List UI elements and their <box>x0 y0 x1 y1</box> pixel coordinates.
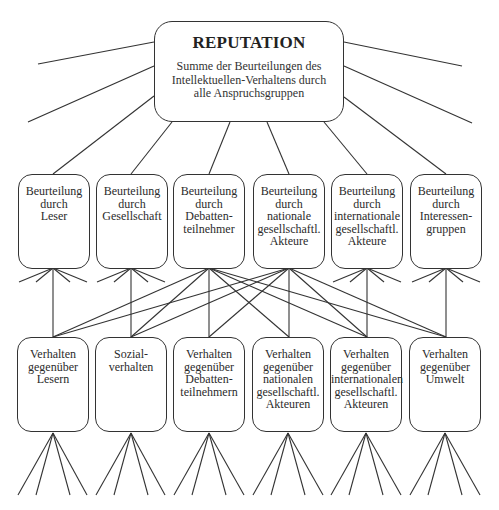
behavior-box-social: Sozial- verhalten <box>95 337 167 432</box>
box-text: Umwelt <box>410 373 480 386</box>
box-text: verhalten <box>96 361 166 374</box>
box-text: internationale <box>332 210 402 223</box>
box-text: Debatten- <box>174 373 244 386</box>
assessment-box-society: Beurteilung durch Gesellschaft <box>96 174 168 269</box>
behavior-box-debaters: Verhalten gegenüber Debatten- teilnehmer… <box>173 337 245 432</box>
box-text: Beurteilung <box>174 185 244 198</box>
box-text: Debatten- <box>174 210 244 223</box>
behavior-box-readers: Verhalten gegenüber Lesern <box>17 337 89 432</box>
reputation-title: REPUTATION <box>155 33 343 53</box>
subtitle-line: alle Anspruchsgruppen <box>159 87 339 101</box>
box-text: Sozial- <box>96 348 166 361</box>
box-text: internationalen <box>331 373 401 386</box>
box-text: gruppen <box>411 223 481 236</box>
assessment-box-national-actors: Beurteilung durch nationale gesellschaft… <box>253 174 325 269</box>
assessment-box-debaters: Beurteilung durch Debatten- teilnehmer <box>173 174 245 269</box>
assessment-box-readers: Beurteilung durch Leser <box>18 174 90 269</box>
box-text: Beurteilung <box>411 185 481 198</box>
behavior-box-international-actors: Verhalten gegenüber internationalen gese… <box>330 337 402 432</box>
subtitle-line: Summe der Beurteilungen des <box>159 60 339 74</box>
box-text: Verhalten <box>18 348 88 361</box>
behavior-box-national-actors: Verhalten gegenüber nationalen gesellsch… <box>252 337 324 432</box>
box-text: Lesern <box>18 373 88 386</box>
box-text: Gesellschaft <box>97 210 167 223</box>
box-text: Leser <box>19 210 89 223</box>
box-text: Beurteilung <box>97 185 167 198</box>
assessment-box-international-actors: Beurteilung durch internationale gesells… <box>331 174 403 269</box>
box-text: Verhalten <box>253 348 323 361</box>
box-text: Akteure <box>332 235 402 248</box>
box-text: Akteuren <box>331 398 401 411</box>
box-text: Beurteilung <box>254 185 324 198</box>
subtitle-line: Intellektuellen-Verhaltens durch <box>159 74 339 88</box>
reputation-subtitle: Summe der Beurteilungen des Intellektuel… <box>155 60 343 101</box>
behavior-box-environment: Verhalten gegenüber Umwelt <box>409 337 481 432</box>
assessment-box-interest-groups: Beurteilung durch Interessen- gruppen <box>410 174 482 269</box>
box-text: Beurteilung <box>332 185 402 198</box>
box-text: Beurteilung <box>19 185 89 198</box>
reputation-box: REPUTATION Summe der Beurteilungen des I… <box>154 21 344 122</box>
box-text: Akteuren <box>253 398 323 411</box>
box-text: Verhalten <box>410 348 480 361</box>
box-text: teilnehmer <box>174 223 244 236</box>
box-text: nationale <box>254 210 324 223</box>
box-text: teilnehmern <box>174 386 244 399</box>
box-text: Verhalten <box>174 348 244 361</box>
box-text: Akteure <box>254 235 324 248</box>
box-text: nationalen <box>253 373 323 386</box>
box-text: Interessen- <box>411 210 481 223</box>
bottom-fans <box>18 433 480 495</box>
box-text: Verhalten <box>331 348 401 361</box>
